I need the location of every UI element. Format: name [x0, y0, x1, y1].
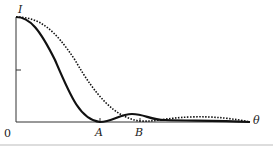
y-axis-label: I [18, 3, 22, 16]
origin-label: 0 [4, 127, 11, 140]
intensity-diagram: I 0 A B θ [0, 0, 273, 148]
marker-a-label: A [95, 126, 103, 139]
x-axis-label: θ [253, 114, 260, 127]
solid-curve [16, 17, 250, 122]
marker-b-label: B [135, 126, 143, 139]
dotted-curve [16, 17, 250, 122]
